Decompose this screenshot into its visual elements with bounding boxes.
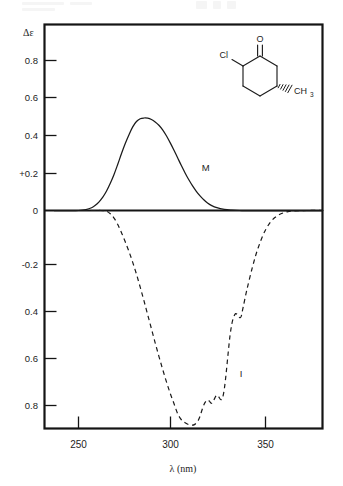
cyclohexane-ring-bonds xyxy=(243,56,277,96)
carbonyl-oxygen-label: O xyxy=(256,34,263,44)
methyl-hashed-wedge-bond xyxy=(278,84,292,92)
curve-label-m: M xyxy=(202,162,210,173)
cd-spectrum-figure: 0.8 0.6 0.4 +0.2 0 -0.2 0.4 0.6 0.8 Δε 2… xyxy=(0,0,343,486)
x-axis-title: λ (nm) xyxy=(170,463,197,475)
chlorine-label: Cl xyxy=(220,50,229,60)
carbonyl-double-bond xyxy=(258,45,263,56)
x-axis-tick-labels: 250 300 350 xyxy=(70,439,274,450)
x-tick-label-1: 300 xyxy=(162,439,179,450)
y-tick-label-2: 0.4 xyxy=(25,130,38,141)
methyl-subscript-label: 3 xyxy=(310,91,314,98)
y-tick-label-7: 0.6 xyxy=(25,353,38,364)
scan-artifact xyxy=(22,1,236,11)
figure-canvas: 0.8 0.6 0.4 +0.2 0 -0.2 0.4 0.6 0.8 Δε 2… xyxy=(0,0,343,486)
x-tick-label-0: 250 xyxy=(70,439,87,450)
x-axis-ticks xyxy=(79,417,266,429)
curve-series-m xyxy=(54,118,321,211)
y-tick-label-6: 0.4 xyxy=(25,306,38,317)
y-axis-ticks xyxy=(45,61,57,406)
y-tick-label-5: -0.2 xyxy=(22,259,38,270)
data-curves xyxy=(54,118,323,425)
x-tick-label-2: 350 xyxy=(257,439,274,450)
y-tick-label-8: 0.8 xyxy=(25,400,38,411)
methyl-label: CH xyxy=(294,86,307,96)
y-tick-label-1: 0.6 xyxy=(25,92,38,103)
chlorine-bond xyxy=(232,60,243,67)
y-tick-label-3: +0.2 xyxy=(19,168,38,179)
y-tick-label-4: 0 xyxy=(33,205,38,216)
y-axis-title-label: Δε xyxy=(23,27,34,38)
y-axis-title: Δε xyxy=(23,27,34,38)
curve-label-i: I xyxy=(240,368,243,379)
molecular-structure-inset: O Cl CH 3 xyxy=(220,34,315,98)
curve-annotations: M I xyxy=(202,162,243,380)
curve-series-i xyxy=(75,210,324,425)
plot-frame xyxy=(45,25,323,429)
x-axis-title-label: λ (nm) xyxy=(170,463,197,475)
y-tick-label-0: 0.8 xyxy=(25,55,38,66)
y-axis-tick-labels: 0.8 0.6 0.4 +0.2 0 -0.2 0.4 0.6 0.8 xyxy=(19,55,38,411)
